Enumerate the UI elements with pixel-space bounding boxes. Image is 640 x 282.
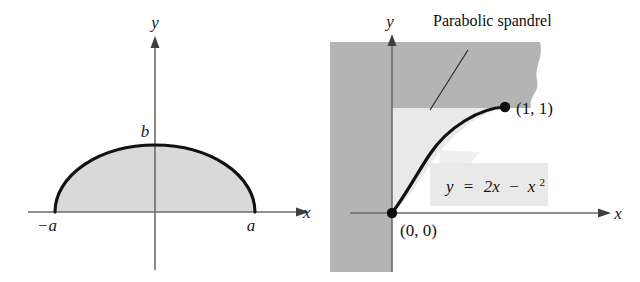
figure-canvas: x y −a a b — [0, 0, 640, 282]
origin-point-dot — [387, 208, 397, 218]
origin-point-label: (0, 0) — [400, 221, 437, 240]
left-intercept-label: −a — [37, 216, 57, 235]
callout-label: Parabolic spandrel — [433, 12, 552, 30]
equation-exponent: 2 — [540, 176, 546, 188]
height-label: b — [141, 122, 150, 141]
equation-minus: − — [509, 177, 519, 196]
equation-lhs: y — [444, 177, 454, 196]
corner-point-label: (1, 1) — [516, 99, 553, 118]
x-axis-label: x — [302, 203, 311, 222]
equation-rhs-b: x — [527, 177, 536, 196]
y-axis-arrow-icon — [388, 34, 397, 46]
equation-rhs-a: 2x — [484, 177, 501, 196]
corner-point-dot — [500, 102, 510, 112]
panel-half-ellipse: x y −a a b — [0, 0, 320, 282]
panel-parabolic-spandrel: x y Parabolic spandrel (0, 0) (1, 1) y =… — [320, 0, 640, 282]
equation-equals: = — [464, 177, 474, 196]
parabolic-spandrel-svg: x y Parabolic spandrel (0, 0) (1, 1) y =… — [320, 0, 640, 282]
right-intercept-label: a — [247, 216, 256, 235]
x-axis-arrow-icon — [598, 209, 611, 218]
y-axis-arrow-icon — [151, 36, 160, 48]
half-ellipse-svg: x y −a a b — [0, 0, 320, 282]
y-axis-label: y — [384, 12, 394, 31]
y-axis-label: y — [149, 13, 159, 32]
x-axis-label: x — [613, 204, 622, 223]
